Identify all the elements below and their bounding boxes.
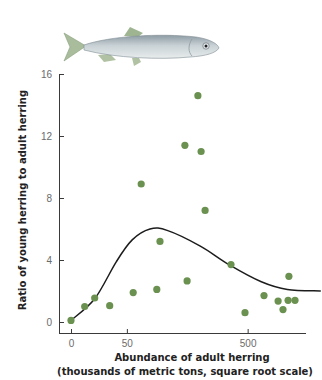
data-point <box>260 292 267 299</box>
data-point <box>241 309 248 316</box>
data-point <box>184 277 191 284</box>
data-point <box>91 294 98 301</box>
data-point <box>275 298 282 305</box>
y-tick-label: 12 <box>41 131 53 142</box>
data-point <box>67 317 74 324</box>
data-point <box>291 297 298 304</box>
data-point <box>285 297 292 304</box>
data-point <box>198 148 205 155</box>
y-tick-label: 4 <box>46 255 52 266</box>
data-point <box>202 207 209 214</box>
data-point <box>194 92 201 99</box>
axes <box>59 74 306 334</box>
x-axis-subtitle: (thousands of metric tons, square root s… <box>57 366 313 377</box>
data-point <box>138 180 145 187</box>
herring-fish-icon <box>64 27 219 66</box>
x-tick-label: 50 <box>122 338 134 349</box>
x-axis-ticks: 050500 <box>69 329 257 349</box>
x-tick-label: 500 <box>240 338 257 349</box>
data-point <box>285 273 292 280</box>
data-point <box>181 142 188 149</box>
data-point <box>130 289 137 296</box>
data-points <box>67 92 298 324</box>
y-axis-title: Ratio of young herring to adult herring <box>17 90 28 310</box>
data-point <box>227 261 234 268</box>
x-tick-label: 0 <box>69 338 75 349</box>
data-point <box>156 238 163 245</box>
data-point <box>153 286 160 293</box>
herring-recruitment-chart: 0481216 050500 Ratio of young herring to… <box>0 0 322 380</box>
x-axis-title: Abundance of adult herring <box>114 352 269 363</box>
data-point <box>279 306 286 313</box>
data-point <box>81 303 88 310</box>
y-tick-label: 0 <box>46 317 52 328</box>
y-axis-ticks: 0481216 <box>41 69 64 328</box>
y-tick-label: 8 <box>46 193 52 204</box>
y-tick-label: 16 <box>41 69 53 80</box>
data-point <box>106 302 113 309</box>
